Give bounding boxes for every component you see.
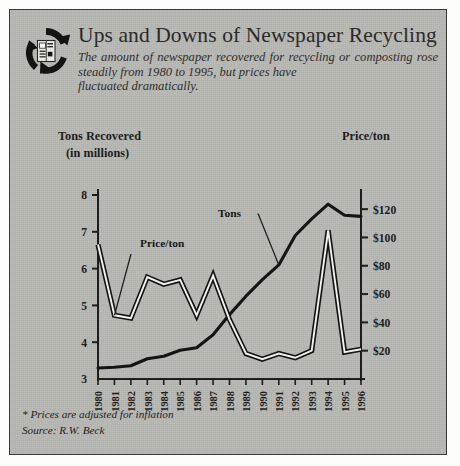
series-label-tons: Tons bbox=[218, 207, 242, 219]
x-axis-year-label: 1990 bbox=[258, 391, 269, 412]
right-axis-tick-label: $120 bbox=[373, 204, 396, 217]
left-axis-tick-label: 6 bbox=[81, 263, 87, 276]
annotation-leader-line bbox=[114, 254, 131, 315]
x-axis-year-label: 1995 bbox=[340, 391, 351, 412]
right-axis-tick-label: $60 bbox=[373, 288, 391, 301]
inflation-footnote: * Prices are adjusted for inflation bbox=[22, 408, 174, 420]
left-axis-tick-label: 3 bbox=[81, 373, 87, 386]
x-axis-year-label: 1992 bbox=[290, 391, 301, 412]
x-axis-year-label: 1987 bbox=[208, 391, 219, 412]
x-axis-year-label: 1994 bbox=[323, 391, 334, 412]
chart-plot-area: Price/tonTons 345678$20$40$60$80$100$120… bbox=[10, 10, 447, 455]
x-axis-year-label: 1993 bbox=[307, 391, 318, 412]
right-axis-tick-label: $20 bbox=[373, 345, 391, 358]
chart-series bbox=[98, 204, 361, 368]
line-chart: Price/tonTons 345678$20$40$60$80$100$120… bbox=[10, 10, 447, 455]
left-axis-tick-label: 4 bbox=[81, 337, 87, 350]
annotation-leader-line bbox=[258, 214, 279, 265]
left-axis-tick-label: 5 bbox=[81, 300, 87, 313]
x-axis-year-label: 1985 bbox=[175, 391, 186, 412]
left-axis-tick-label: 8 bbox=[81, 189, 87, 202]
chart-panel: Ups and Downs of Newspaper Recycling The… bbox=[9, 9, 447, 455]
source-footnote: Source: R.W. Beck bbox=[22, 424, 104, 436]
series-label-price-ton: Price/ton bbox=[140, 237, 185, 249]
x-axis-year-label: 1989 bbox=[241, 391, 252, 412]
x-axis-year-label: 1991 bbox=[274, 391, 285, 412]
right-axis-tick-label: $40 bbox=[373, 317, 391, 330]
right-axis-tick-label: $80 bbox=[373, 260, 391, 273]
left-axis-tick-label: 7 bbox=[81, 226, 87, 239]
price-line-outline bbox=[98, 230, 361, 359]
right-axis-tick-label: $100 bbox=[373, 232, 396, 245]
x-axis-year-label: 1996 bbox=[356, 391, 367, 412]
chart-page: Ups and Downs of Newspaper Recycling The… bbox=[0, 0, 460, 466]
x-axis-year-label: 1986 bbox=[192, 391, 203, 412]
x-axis-year-label: 1988 bbox=[225, 391, 236, 412]
